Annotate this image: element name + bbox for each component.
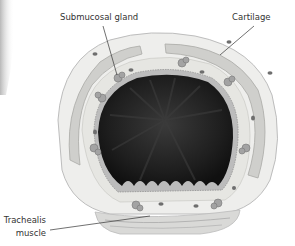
edge-shadow [0, 0, 14, 95]
label-cartilage: Cartilage [232, 13, 271, 23]
label-trachealis-line1: Trachealis [2, 216, 46, 226]
trachea-diagram: Submucosal gland Cartilage Trachealis mu… [0, 0, 295, 246]
trachea-illustration [0, 0, 295, 246]
lumen [98, 75, 233, 186]
cartilage-leader [220, 26, 254, 55]
label-submucosal-gland: Submucosal gland [60, 13, 138, 23]
label-trachealis-line2: muscle [2, 229, 46, 239]
